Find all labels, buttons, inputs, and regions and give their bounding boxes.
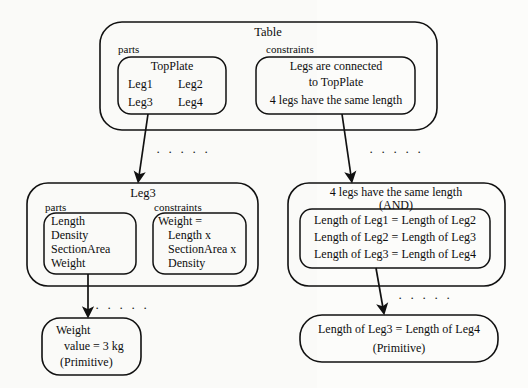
node-table-parts-label: parts — [118, 44, 139, 55]
node-leg3-part-sectionarea: SectionArea — [51, 243, 110, 255]
node-table-constraints-label: constraints — [266, 44, 314, 55]
node-weight-primitive-line1: Weight — [56, 324, 90, 336]
node-table-constraint-line3: 4 legs have the same length — [270, 94, 402, 106]
node-table-part-leg1: Leg1 — [128, 78, 153, 90]
node-table-part-topplate: TopPlate — [151, 60, 194, 72]
node-four-legs-title-line2: (AND) — [379, 199, 413, 211]
node-leg3-part-length: Length — [51, 215, 85, 227]
arrow-parts-to-leg3 — [139, 114, 148, 176]
ellipsis-left-upper: · · · · · — [156, 144, 210, 160]
arrow-fourlegs-to-length — [376, 268, 383, 308]
node-leg3-part-weight: Weight — [51, 257, 85, 269]
node-leg3-title: Leg3 — [130, 187, 156, 200]
node-four-legs-title-line1: 4 legs have the same length — [330, 186, 462, 198]
node-table-part-leg3: Leg3 — [128, 96, 153, 108]
node-length-primitive-line1: Length of Leg3 = Length of Leg4 — [318, 323, 480, 335]
node-table-part-leg2: Leg2 — [178, 78, 203, 90]
node-four-legs-constraint-line2: Length of Leg2 = Length of Leg3 — [314, 231, 476, 243]
node-leg3-constraint-line4: Density — [168, 257, 205, 269]
node-leg3-constraint-line3: SectionArea x — [168, 243, 236, 255]
node-leg3-constraint-line1: Weight = — [158, 215, 202, 227]
node-leg3-parts-label: parts — [45, 202, 66, 213]
arrow-constraints-to-fourlegs — [342, 114, 351, 176]
ellipsis-right-lower: · · · · · — [398, 290, 452, 306]
node-leg3-constraint-line2: Length x — [168, 229, 211, 241]
node-weight-primitive-line3: (Primitive) — [60, 356, 113, 368]
diagram-canvas: Table parts constraints TopPlate Leg1 Le… — [0, 0, 528, 388]
node-four-legs-constraint-line3: Length of Leg3 = Length of Leg4 — [314, 248, 476, 260]
node-length-primitive-line2: (Primitive) — [373, 342, 426, 354]
node-table-constraint-line1: Legs are connected — [290, 60, 383, 72]
node-leg3-part-density: Density — [51, 229, 88, 241]
node-table-constraint-line2: to TopPlate — [309, 76, 364, 88]
node-leg3-constraints-label: constraints — [154, 202, 202, 213]
node-table-part-leg4: Leg4 — [178, 96, 203, 108]
ellipsis-left-lower: · · · · · — [95, 300, 149, 316]
ellipsis-right-upper: · · · · · — [369, 144, 423, 160]
node-table-title: Table — [254, 26, 282, 39]
node-weight-primitive-line2: value = 3 kg — [64, 340, 124, 352]
node-four-legs-constraint-line1: Length of Leg1 = Length of Leg2 — [314, 214, 476, 226]
